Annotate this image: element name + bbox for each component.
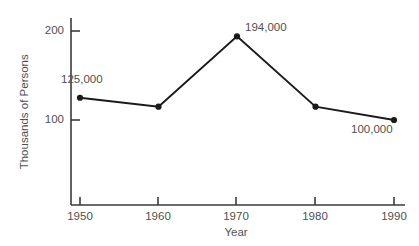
y-tick-label-200: 200	[26, 25, 64, 37]
x-tick-label-1950: 1950	[50, 211, 110, 223]
x-tick-label-1990: 1990	[364, 211, 419, 223]
data-point-1950	[77, 95, 83, 101]
x-tick-label-1970: 1970	[206, 211, 266, 223]
data-point-1980	[312, 104, 318, 110]
x-axis-title: Year	[196, 227, 276, 239]
y-tick-label-100: 100	[26, 114, 64, 126]
y-axis-title: Thousands of Persons	[19, 42, 31, 182]
x-tick-label-1980: 1980	[285, 211, 345, 223]
data-label-1950: 125,000	[61, 74, 103, 86]
data-label-1990: 100,000	[351, 124, 393, 136]
data-point-markers	[77, 33, 397, 123]
data-label-1970: 194,000	[245, 22, 287, 34]
x-tick-label-1960: 1960	[128, 211, 188, 223]
line-chart: 200 100 1950 1960 1970 1980 1990 Year Th…	[0, 0, 419, 246]
data-point-1960	[155, 104, 161, 110]
data-series-line	[80, 36, 394, 120]
data-point-1970	[234, 33, 240, 39]
